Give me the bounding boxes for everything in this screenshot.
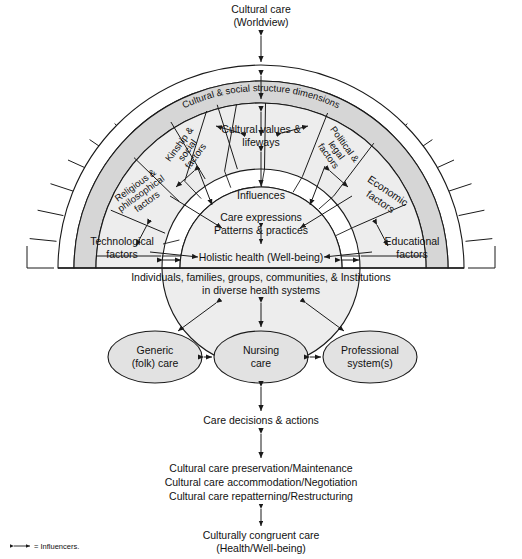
baseline-caption-line2: in diverse health systems — [202, 284, 320, 296]
title-line1: Cultural care — [231, 3, 291, 15]
outcome-culturally-congruent-care: Culturally congruent care (Health/Well-b… — [203, 529, 320, 554]
core-holistic-health: Holistic health (Well-being) — [199, 251, 324, 263]
care-mode-1: Cultural care preservation/Maintenance — [169, 462, 352, 474]
outcome-line2: (Health/Well-being) — [216, 542, 306, 554]
node-label-line1: Nursing — [243, 344, 279, 356]
care-mode-3: Cultural care repatterning/Restructuring — [169, 490, 353, 502]
sector-label-line2: factors — [106, 248, 138, 260]
core-influences: Influences — [237, 189, 285, 201]
sector-label-line1: Cultural values & — [221, 123, 300, 135]
legend-text: = Influencers. — [34, 542, 79, 551]
sector-label-line1: Educational — [385, 235, 440, 247]
node-label-line1: Generic — [137, 344, 174, 356]
sector-label-line1: Technological — [90, 235, 154, 247]
sector-label-line2: lifeways — [242, 136, 279, 148]
sector-label-line2: factors — [396, 248, 428, 260]
node-label-line1: Professional — [341, 344, 399, 356]
care-mode-2: Cultural care accommodation/Negotiation — [165, 476, 358, 488]
title-line2: (Worldview) — [233, 16, 288, 28]
outcome-line1: Culturally congruent care — [203, 529, 320, 541]
core-care-expressions-2: Patterns & practices — [214, 224, 308, 236]
care-decisions-label: Care decisions & actions — [203, 414, 319, 426]
care-modes-list: Cultural care preservation/Maintenance C… — [165, 462, 358, 502]
baseline-caption-line1: Individuals, families, groups, communiti… — [131, 271, 391, 283]
node-label-line2: care — [251, 357, 272, 369]
node-professional-systems[interactable]: Professional system(s) — [323, 331, 417, 383]
legend: = Influencers. — [14, 542, 79, 551]
sunrise-model-diagram: Cultural & social structure dimensions C… — [0, 0, 522, 559]
node-generic-folk-care[interactable]: Generic (folk) care — [108, 331, 202, 383]
node-nursing-care[interactable]: Nursing care — [214, 331, 308, 383]
node-label-line2: system(s) — [347, 357, 393, 369]
core-care-expressions-1: Care expressions — [220, 211, 302, 223]
title-cultural-care: Cultural care (Worldview) — [231, 3, 291, 28]
node-label-line2: (folk) care — [132, 357, 179, 369]
